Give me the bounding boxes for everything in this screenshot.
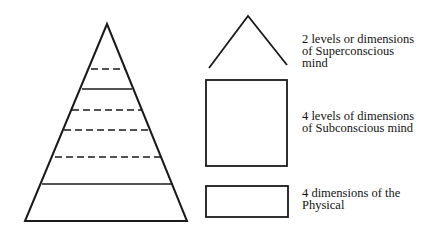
subconscious-square [206, 80, 287, 166]
subconscious-label: 4 levels of dimensions of Subconscious m… [302, 111, 414, 135]
physical-label: 4 dimensions of the Physical [302, 188, 400, 212]
physical-rectangle [206, 186, 288, 217]
superconscious-chevron [209, 16, 287, 68]
label-line: of Subconscious mind [302, 123, 414, 135]
label-line: Physical [302, 200, 400, 212]
superconscious-label: 2 levels or dimensions of Superconscious… [302, 34, 414, 69]
pyramid [25, 24, 187, 221]
label-line: mind [302, 58, 414, 70]
legend-shapes [206, 16, 288, 217]
pyramid-outline [25, 24, 187, 221]
